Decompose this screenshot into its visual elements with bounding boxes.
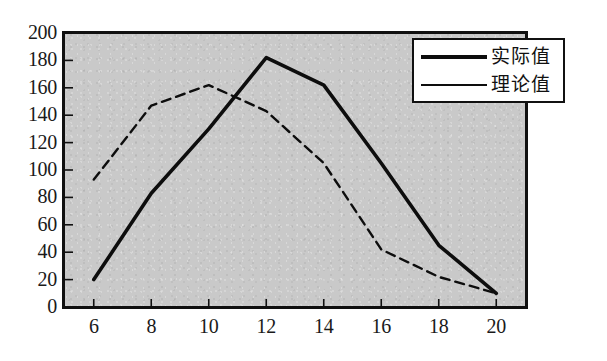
line-chart: 020406080100120140160180200 681012141618…	[0, 0, 607, 361]
legend-label-actual: 实际值	[491, 47, 551, 66]
legend-item-actual[interactable]: 实际值	[414, 43, 563, 71]
legend-swatch-thin-line-icon	[421, 80, 487, 90]
legend-item-theoretical[interactable]: 理论值	[414, 71, 563, 99]
legend-swatch-thick-line-icon	[421, 52, 487, 62]
legend: 实际值 理论值	[412, 38, 565, 103]
legend-label-theoretical: 理论值	[491, 75, 551, 94]
